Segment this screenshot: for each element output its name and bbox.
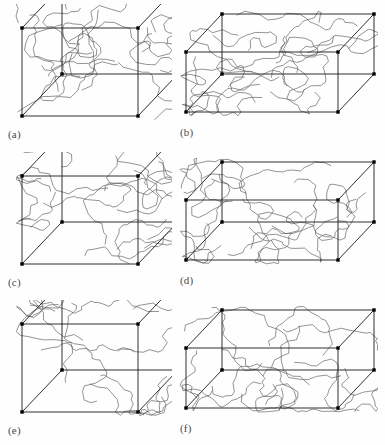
crosslink-vertex (20, 262, 23, 265)
box-edge (138, 4, 172, 28)
polymer-chain (212, 307, 289, 367)
crosslink-vertex (60, 368, 63, 371)
polymer-chain (44, 183, 131, 208)
polymer-chain (185, 312, 262, 371)
polymer-chain (134, 171, 172, 210)
crosslink-vertex (136, 174, 139, 177)
panel-d (178, 156, 378, 278)
crosslink-vertex (136, 410, 139, 413)
vertex-group (184, 308, 375, 409)
polymer-chain (117, 239, 172, 250)
polymer-chain (182, 84, 259, 115)
chain-group (16, 152, 172, 264)
panel-a (6, 4, 172, 130)
polymer-chain (41, 342, 107, 403)
crosslink-vertex (20, 114, 23, 117)
box-edge (22, 152, 62, 176)
box-wireframe (186, 162, 374, 260)
polymer-chain (239, 162, 331, 194)
polymer-chain (16, 177, 41, 221)
polymer-chain (308, 29, 378, 52)
chain-group (16, 4, 172, 120)
crosslink-vertex (372, 308, 375, 311)
crosslink-vertex (184, 258, 187, 261)
crosslink-vertex (184, 50, 187, 53)
crosslink-vertex (336, 406, 339, 409)
crosslink-vertex (20, 410, 23, 413)
crosslink-vertex (220, 308, 223, 311)
crosslink-vertex (336, 198, 339, 201)
crosslink-vertex (336, 258, 339, 261)
polymer-chain (286, 212, 349, 241)
polymer-chain (327, 184, 366, 217)
crosslink-vertex (372, 368, 375, 371)
box-edge (338, 74, 374, 112)
panel-f (178, 304, 378, 426)
polymer-chain (190, 29, 252, 72)
polymer-chain (270, 51, 328, 101)
box-wireframe (22, 300, 172, 412)
box-edge (22, 370, 62, 412)
polymer-chain (191, 57, 262, 116)
polymer-chain (42, 22, 150, 71)
box-edge (22, 300, 62, 324)
box-edge (186, 222, 222, 260)
polymer-chain (295, 359, 355, 411)
polymer-chain (30, 15, 58, 92)
panel-label-f: (f) (180, 422, 192, 434)
polymer-chain (342, 369, 378, 412)
crosslink-vertex (336, 346, 339, 349)
panel-b (178, 8, 378, 130)
panel-e (6, 300, 172, 426)
box-edge (338, 370, 374, 408)
panel-label-e: (e) (8, 424, 21, 436)
polymer-chain (281, 326, 341, 380)
crosslink-vertex (336, 110, 339, 113)
crosslink-vertex (372, 220, 375, 223)
box-edge (338, 222, 374, 260)
panel-label-a: (a) (8, 128, 21, 140)
crosslink-vertex (372, 160, 375, 163)
crosslink-vertex (60, 72, 63, 75)
crosslink-vertex (136, 114, 139, 117)
panel-label-d: (d) (180, 274, 193, 286)
crosslink-vertex (136, 322, 139, 325)
crosslink-vertex (20, 174, 23, 177)
crosslink-vertex (184, 346, 187, 349)
box-edge (22, 74, 62, 116)
polymer-chain (16, 307, 72, 382)
box-edge (22, 222, 62, 264)
polymer-chain (222, 349, 278, 396)
box-edge (138, 300, 172, 324)
crosslink-vertex (136, 26, 139, 29)
crosslink-vertex (184, 110, 187, 113)
polymer-chain (69, 10, 101, 78)
polymer-chain (144, 15, 172, 57)
box-edge (186, 14, 222, 52)
figure-canvas: (a) (b) (c) (d) (e) (f) (0, 0, 385, 445)
polymer-chain (281, 11, 321, 72)
crosslink-vertex (184, 198, 187, 201)
polymer-chain (180, 351, 212, 411)
panel-label-b: (b) (180, 126, 193, 138)
polymer-chain (181, 66, 245, 87)
polymer-chain (130, 34, 172, 73)
polymer-chain (17, 152, 71, 167)
crosslink-vertex (220, 160, 223, 163)
crosslink-vertex (60, 220, 63, 223)
crosslink-vertex (184, 406, 187, 409)
box-wireframe (186, 14, 374, 112)
polymer-chain (182, 382, 261, 407)
panel-label-c: (c) (8, 276, 21, 288)
crosslink-vertex (220, 72, 223, 75)
box-edge (138, 74, 172, 116)
crosslink-vertex (372, 12, 375, 15)
polymer-chain (41, 62, 118, 101)
crosslink-vertex (20, 26, 23, 29)
crosslink-vertex (372, 72, 375, 75)
chain-group (16, 300, 172, 416)
crosslink-vertex (220, 368, 223, 371)
crosslink-vertex (220, 220, 223, 223)
crosslink-vertex (220, 12, 223, 15)
box-edge (22, 4, 62, 28)
